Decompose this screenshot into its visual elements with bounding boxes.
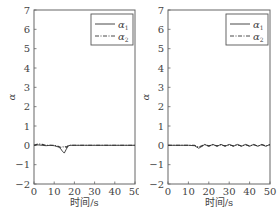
right-chart-panel: −2−10123456701020304050时间/sαα1α2 [134,0,273,217]
y-axis-title: α [140,93,151,100]
y-tick-label: 1 [158,121,164,132]
x-tick-label: 10 [48,186,61,197]
y-tick-label: −2 [149,179,164,190]
x-tick-label: 30 [223,186,236,197]
y-tick-label: 3 [158,82,164,93]
legend: α1α2 [91,14,133,45]
x-tick-label: 30 [88,186,101,197]
x-tick-label: 40 [108,186,121,197]
x-tick-label: 0 [165,186,171,197]
y-tick-label: 4 [158,63,164,74]
x-tick-label: 20 [202,186,215,197]
y-tick-label: 0 [24,140,30,151]
legend: α1α2 [226,14,268,45]
y-tick-label: 2 [158,101,164,112]
y-tick-label: 0 [158,140,164,151]
y-tick-label: 7 [158,5,164,16]
y-tick-label: 4 [24,63,30,74]
y-tick-label: 7 [24,5,30,16]
y-tick-label: 5 [24,43,30,54]
x-tick-label: 0 [31,186,37,197]
x-tick-label: 40 [243,186,256,197]
y-tick-label: 6 [24,24,30,35]
series-line-α1 [34,145,135,153]
left-chart-panel: −2−10123456701020304050时间/sαα1α2 [0,0,139,217]
right-chart: −2−10123456701020304050时间/sαα1α2 [134,0,278,217]
y-tick-label: −1 [15,159,30,170]
y-tick-label: 6 [158,24,164,35]
y-tick-label: 1 [24,121,30,132]
left-chart: −2−10123456701020304050时间/sαα1α2 [0,0,139,217]
x-axis-title: 时间/s [205,196,234,208]
y-tick-label: 2 [24,101,30,112]
y-tick-label: −2 [15,179,30,190]
x-axis-title: 时间/s [70,196,99,208]
y-tick-label: 5 [158,43,164,54]
x-tick-label: 20 [68,186,81,197]
x-tick-label: 50 [264,186,277,197]
x-tick-label: 10 [182,186,195,197]
y-tick-label: 3 [24,82,30,93]
y-axis-title: α [6,93,17,100]
y-tick-label: −1 [149,159,164,170]
